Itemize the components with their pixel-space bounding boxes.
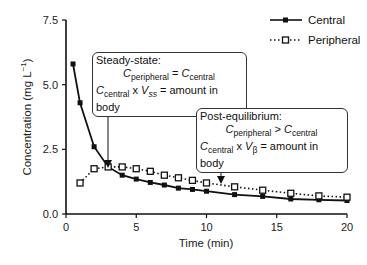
dotted-line-open-square-icon (268, 35, 304, 45)
data-point (147, 168, 153, 174)
data-point (288, 190, 294, 196)
x-tick-label: 0 (63, 221, 69, 233)
solid-line-square-icon (268, 15, 304, 25)
data-point (148, 180, 153, 185)
annotation-title: Steady-state: (96, 54, 242, 67)
data-point (120, 173, 125, 178)
y-axis-label: Concentration (mg L−1) (19, 58, 33, 175)
data-point (232, 184, 238, 190)
y-tick-label: 7.5 (43, 14, 58, 26)
data-point (134, 177, 139, 182)
data-point (71, 61, 76, 66)
data-point (175, 175, 181, 181)
x-tick-label: 20 (341, 221, 353, 233)
data-point (119, 164, 125, 170)
data-point (232, 192, 237, 197)
data-point (260, 187, 266, 193)
x-tick-label: 5 (133, 221, 139, 233)
annotation-title: Post-equilibrium: (200, 110, 343, 123)
annotation-equation-1: Cperipheral > Ccentral (200, 123, 343, 140)
y-tick-label: 0.0 (43, 208, 58, 220)
annotation-equation-1: Cperipheral = Ccentral (96, 67, 242, 84)
legend-item-peripheral: Peripheral (268, 30, 360, 50)
y-tick-label: 2.5 (43, 143, 58, 155)
data-point (133, 166, 139, 172)
data-point (161, 172, 167, 178)
data-point (288, 196, 293, 201)
data-point (91, 166, 97, 172)
y-tick-label: 5.0 (43, 79, 58, 91)
legend-label-peripheral: Peripheral (308, 34, 360, 46)
legend-item-central: Central (268, 10, 360, 30)
data-point (92, 144, 97, 149)
legend-label-central: Central (308, 14, 345, 26)
x-tick-label: 15 (271, 221, 283, 233)
data-point (77, 180, 83, 186)
data-point (78, 100, 83, 105)
data-point (344, 194, 350, 200)
data-point (162, 183, 167, 188)
x-axis-label: Time (min) (179, 237, 234, 249)
data-point (260, 194, 265, 199)
annotation-post-equilibrium: Post-equilibrium: Cperipheral > Ccentral… (196, 108, 348, 173)
data-point (190, 187, 195, 192)
data-point (316, 193, 322, 199)
data-point (176, 186, 181, 191)
annotation-equation-2: Ccentral x Vβ = amount in body (200, 140, 343, 170)
legend: Central Peripheral (268, 10, 360, 50)
data-point (204, 180, 210, 186)
data-point (189, 177, 195, 183)
data-point (204, 189, 209, 194)
x-tick-label: 10 (200, 221, 212, 233)
